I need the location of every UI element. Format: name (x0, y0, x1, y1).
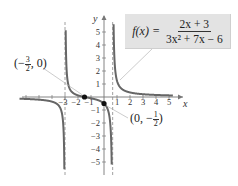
y-axis-label: y (92, 13, 98, 24)
y-tick-label: 4 (96, 40, 101, 50)
x-tick-label: 4 (154, 97, 159, 107)
point-label-x-intercept: (−32, 0) (14, 56, 47, 73)
x-axis-label: x (182, 98, 188, 109)
y-tick-label: −5 (91, 157, 100, 167)
x-tick-label: 2 (128, 97, 132, 107)
y-tick-label: −3 (91, 131, 100, 141)
formula-lhs: f(x) = (132, 24, 160, 39)
point-label-y-intercept: (0, −12) (130, 111, 163, 128)
label-suffix: ) (159, 111, 163, 125)
function-curve (20, 99, 65, 170)
formula-box: f(x) = 2x + 3 3x² + 7x − 6 (125, 14, 231, 49)
frac-den: 2 (26, 65, 30, 73)
formula-numerator: 2x + 3 (178, 18, 212, 32)
formula-fraction: 2x + 3 3x² + 7x − 6 (166, 18, 223, 45)
intercept-point (101, 101, 106, 106)
y-axis-arrow-icon (102, 15, 107, 20)
y-tick-label: −1 (91, 105, 100, 115)
x-tick-label: −2 (71, 97, 80, 107)
x-tick-label: −3 (58, 97, 67, 107)
formula-denominator: 3x² + 7x − 6 (166, 32, 223, 45)
frac-den: 2 (154, 120, 158, 128)
label-prefix: (− (14, 56, 25, 70)
y-tick-label: 3 (96, 53, 100, 63)
y-tick-label: −4 (91, 144, 101, 154)
y-tick-label: 1 (96, 79, 100, 89)
x-tick-label: 1 (115, 97, 119, 107)
x-tick-label: 5 (167, 97, 171, 107)
y-tick-label: 5 (96, 27, 100, 37)
y-tick-label: 2 (96, 66, 100, 76)
x-tick-label: 3 (141, 97, 145, 107)
leader-line (43, 68, 83, 95)
label-prefix: (0, − (130, 111, 153, 125)
label-suffix: , 0) (31, 56, 47, 70)
leader-line (120, 48, 153, 80)
y-tick-label: −2 (91, 118, 100, 128)
